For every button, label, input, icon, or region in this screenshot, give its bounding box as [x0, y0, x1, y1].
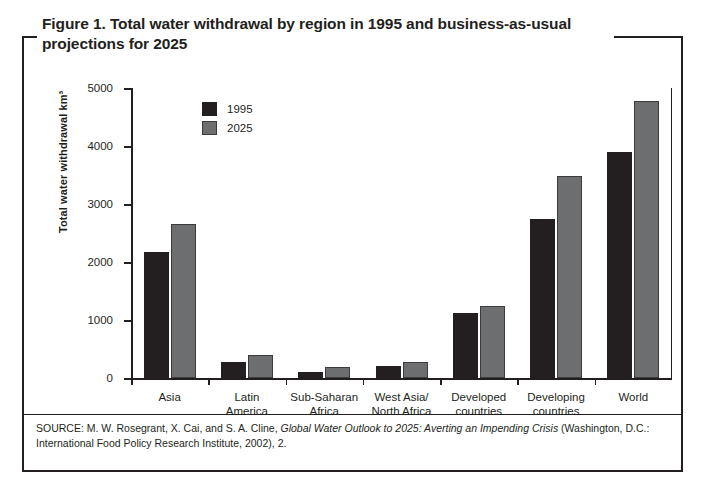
x-axis-category-label: World: [595, 390, 672, 404]
x-axis-tick: [440, 378, 442, 385]
y-axis-tick-label: 3000: [87, 198, 113, 210]
plot-right-border: [671, 88, 673, 378]
bar-1995-sub-saharan-africa: [298, 372, 323, 378]
x-axis-category-label: Asia: [131, 390, 208, 404]
category-label-line: countries: [517, 404, 594, 418]
source-divider: [24, 414, 681, 415]
y-axis-tick-label: 5000: [87, 82, 113, 94]
source-note-prefix: SOURCE: M. W. Rosegrant, X. Cai, and S. …: [36, 422, 281, 434]
legend-label-2025: 2025: [227, 122, 253, 134]
y-axis-tick: 0: [124, 378, 131, 380]
y-axis-tick-label: 2000: [87, 256, 113, 268]
bar-2025-latin-america: [248, 355, 273, 378]
y-axis-tick-label: 4000: [87, 140, 113, 152]
legend-item-2025: 2025: [202, 121, 253, 135]
category-label-line: Developed: [440, 390, 517, 404]
category-label-line: West Asia/: [363, 390, 440, 404]
x-axis-tick: [131, 378, 133, 385]
category-label-line: Latin: [208, 390, 285, 404]
y-axis-tick-label: 1000: [87, 314, 113, 326]
legend-item-1995: 1995: [202, 102, 253, 116]
legend-swatch-2025-icon: [202, 121, 217, 135]
bar-2025-developing-countries: [557, 176, 582, 378]
x-axis-tick: [595, 378, 597, 385]
bar-2025-world: [634, 101, 659, 378]
bar-1995-developed-countries: [453, 313, 478, 378]
figure-title: Figure 1. Total water withdrawal by regi…: [42, 14, 602, 55]
bar-2025-west-asia--north-africa: [403, 362, 428, 378]
x-axis-tick: [286, 378, 288, 385]
legend-label-1995: 1995: [227, 103, 253, 115]
bar-2025-developed-countries: [480, 306, 505, 378]
y-axis-tick: 4000: [124, 146, 131, 148]
chart-legend: 1995 2025: [202, 102, 253, 140]
category-label-line: Developing: [517, 390, 594, 404]
legend-swatch-1995-icon: [202, 102, 217, 116]
category-label-line: Africa: [286, 404, 363, 418]
bar-1995-latin-america: [221, 362, 246, 378]
y-axis-line: [131, 88, 133, 378]
y-axis-tick: 3000: [124, 204, 131, 206]
category-label-line: America: [208, 404, 285, 418]
y-axis-title: Total water withdrawal km³: [57, 91, 69, 233]
bar-2025-sub-saharan-africa: [325, 367, 350, 378]
x-axis-tick: [208, 378, 210, 385]
bar-1995-developing-countries: [530, 219, 555, 378]
bar-1995-asia: [144, 252, 169, 378]
category-label-line: World: [595, 390, 672, 404]
bar-2025-asia: [171, 224, 196, 378]
y-axis-tick: 2000: [124, 262, 131, 264]
category-label-line: North Africa: [363, 404, 440, 418]
bar-1995-world: [607, 152, 632, 378]
y-axis-tick: 5000: [124, 88, 131, 90]
bar-1995-west-asia--north-africa: [376, 366, 401, 378]
frame-border-bottom: [22, 470, 683, 472]
frame-border-right: [681, 36, 683, 472]
x-axis-tick: [363, 378, 365, 385]
category-label-line: Asia: [131, 390, 208, 404]
x-axis-tick: [517, 378, 519, 385]
source-note-title: Global Water Outlook to 2025: Averting a…: [281, 422, 559, 434]
category-label-line: countries: [440, 404, 517, 418]
source-note: SOURCE: M. W. Rosegrant, X. Cai, and S. …: [36, 421, 676, 451]
frame-border-top-left: [22, 36, 37, 38]
frame-border-left: [22, 36, 24, 472]
y-axis-tick-label: 0: [107, 372, 113, 384]
frame-border-top-right: [614, 36, 683, 38]
x-axis-line: [131, 378, 672, 380]
y-axis-tick: 1000: [124, 320, 131, 322]
category-label-line: Sub-Saharan: [286, 390, 363, 404]
